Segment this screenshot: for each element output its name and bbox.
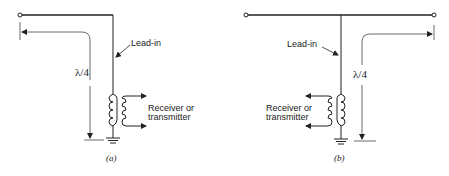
panel-a-lead-in-label: Lead-in bbox=[131, 38, 161, 48]
diagram-drawing bbox=[0, 0, 449, 176]
lead-in-pointer bbox=[322, 47, 338, 55]
panel-b-receiver-label-line2: transmitter bbox=[266, 112, 309, 122]
antenna-end-terminal-right bbox=[432, 13, 436, 17]
quarter-wave-dimension-top bbox=[362, 34, 432, 65]
antenna-diagram: Lead-in λ/4 Receiver or transmitter (a) … bbox=[0, 0, 449, 176]
panel-a-caption: (a) bbox=[106, 153, 117, 163]
panel-b-quarter-wave-label: λ/4 bbox=[353, 69, 367, 79]
panel-a-quarter-wave-label: λ/4 bbox=[75, 67, 89, 77]
secondary-coil bbox=[122, 98, 126, 122]
panel-b-caption: (b) bbox=[334, 153, 345, 163]
lead-in-pointer bbox=[116, 45, 130, 57]
primary-coil bbox=[109, 94, 113, 126]
panel-b-lead-in-label: Lead-in bbox=[287, 39, 317, 49]
primary-coil bbox=[341, 94, 345, 126]
panel-a-drawing bbox=[18, 13, 146, 143]
antenna-end-terminal bbox=[18, 13, 22, 17]
panel-a-receiver-label-line2: transmitter bbox=[148, 112, 191, 122]
secondary-coil bbox=[328, 98, 332, 122]
antenna-end-terminal-left bbox=[244, 13, 248, 17]
panel-b-drawing bbox=[244, 13, 436, 144]
